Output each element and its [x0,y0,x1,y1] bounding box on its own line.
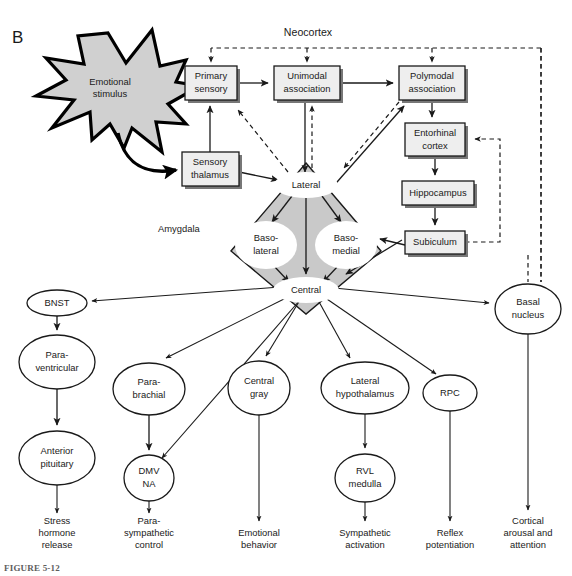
figure-root: Emotional stimulus [0,0,572,576]
unimodal-association-label-line1: Unimodal [287,70,327,81]
emotional-line1: Emotional [238,527,280,538]
polymodal-association-label-line1: Polymodal [410,70,454,81]
node-basal-nucleus[interactable]: Basal nucleus [495,284,561,334]
lateral-to-polymodal-arrow [330,106,404,190]
node-rpc[interactable]: RPC [423,375,477,411]
emotional-line2: behavior [241,539,277,550]
outcome-parasympathetic-control: Para- sympathetic control [124,515,174,550]
outcome-emotional-behavior: Emotional behavior [238,527,280,550]
unimodal-association-label-line2: association [284,83,331,94]
basolateral-nucleus-label-line2: lateral [253,245,279,256]
outcome-cortical-arousal-attention: Cortical arousal and attention [504,515,553,550]
box-subiculum[interactable]: Subiculum [405,231,468,257]
thalamus-to-lateral-arrow [239,172,278,180]
lateral-hypothalamus-label-line2: hypothalamus [336,388,395,399]
stimulus-label-line1: Emotional [89,76,131,87]
sensory-thalamus-label-line1: Sensory [193,156,228,167]
dmv-na-label-line1: DMV [139,465,161,476]
rvl-medulla-label-line1: RVL [356,465,374,476]
parasymp-line3: control [135,539,163,550]
stress-line2: hormone [38,527,75,538]
box-entorhinal-cortex[interactable]: Entorhinal cortex [405,123,468,159]
central-to-basal-nucleus-arrow [334,288,489,303]
box-polymodal-association[interactable]: Polymodal association [399,66,468,103]
node-paraventricular[interactable]: Para- ventricular [19,335,95,389]
box-unimodal-association[interactable]: Unimodal association [274,66,343,103]
rvl-medulla-label-line2: medulla [349,478,383,489]
stress-line1: Stress [44,515,71,526]
parasymp-line2: sympathetic [124,527,174,538]
parabrachial-label-line2: brachial [133,389,166,400]
outcome-reflex-potentiation: Reflex potentiation [426,527,474,550]
outcome-sympathetic-activation: Sympathetic activation [339,527,391,550]
rpc-label: RPC [440,387,460,398]
anterior-pituitary-label-line1: Anterior [41,445,74,456]
hippocampus-label: Hippocampus [409,187,467,198]
box-sensory-thalamus[interactable]: Sensory thalamus [182,152,242,189]
amygdala-region-label: Amygdala [158,223,200,234]
stress-line3: release [42,539,73,550]
outcome-labels-group: Stress hormone release Para- sympathetic… [38,515,552,550]
central-gray-label-line1: Central [244,375,274,386]
basal-nucleus-label-line2: nucleus [512,309,545,320]
dmv-na-label-line2: NA [142,478,156,489]
box-hippocampus[interactable]: Hippocampus [402,181,477,208]
parasymp-line1: Para- [138,515,161,526]
node-anterior-pituitary[interactable]: Anterior pituitary [19,431,95,485]
basomedial-nucleus-label-line2: medial [332,245,360,256]
primary-sensory-label-line1: Primary [195,70,228,81]
central-to-lateral-hypothalamus-arrow [318,300,350,358]
cortical-line1: Cortical [512,515,544,526]
central-to-rpc-arrow [324,297,436,374]
outcome-stress-hormone-release: Stress hormone release [38,515,75,550]
bnst-label: BNST [44,297,69,308]
cortical-line3: attention [510,539,546,550]
polymodal-to-amygdala-dashed [344,102,399,168]
panel-letter: B [12,28,23,47]
parabrachial-label-line1: Para- [138,376,161,387]
central-to-central-gray-arrow [266,300,300,356]
central-nucleus-label: Central [291,284,321,295]
central-to-bnst-arrow [92,287,280,301]
anterior-pituitary-label-line2: pituitary [41,458,74,469]
sympathetic-line2: activation [345,539,385,550]
entorhinal-cortex-label-line1: Entorhinal [414,127,456,138]
subiculum-label: Subiculum [413,236,457,247]
neocortex-region-label: Neocortex [284,26,333,38]
paraventricular-label-line1: Para- [46,349,69,360]
node-central-gray[interactable]: Central gray [228,361,290,415]
entorhinal-cortex-label-line2: cortex [422,140,448,151]
lateral-to-primary-sensory-dashed [238,110,288,172]
primary-sensory-label-line2: sensory [195,83,228,94]
node-parabrachial[interactable]: Para- brachial [113,363,185,415]
node-dmv-na[interactable]: DMV NA [124,455,174,501]
reflex-line2: potentiation [426,539,474,550]
node-lateral-hypothalamus[interactable]: Lateral hypothalamus [321,362,409,414]
basolateral-nucleus-label-line1: Baso- [254,232,279,243]
node-rvl-medulla[interactable]: RVL medulla [335,454,395,502]
sensory-thalamus-label-line2: thalamus [191,169,229,180]
polymodal-association-label-line2: association [409,83,456,94]
central-gray-label-line2: gray [250,388,269,399]
node-bnst[interactable]: BNST [27,290,87,316]
figure-caption: FIGURE 5-12 [4,563,264,576]
stimulus-label-line2: stimulus [93,88,128,99]
cortical-line2: arousal and [504,527,553,538]
box-primary-sensory[interactable]: Primary sensory [185,66,240,103]
lateral-nucleus-label: Lateral [292,179,321,190]
circuit-diagram: Emotional stimulus [0,0,572,576]
sympathetic-line1: Sympathetic [339,527,391,538]
lateral-hypothalamus-label-line1: Lateral [351,375,380,386]
basomedial-nucleus-label-line1: Baso- [334,232,359,243]
emotional-stimulus-burst: Emotional stimulus [36,30,200,171]
reflex-line1: Reflex [437,527,464,538]
paraventricular-label-line2: ventricular [35,362,78,373]
basal-nucleus-label-line1: Basal [516,296,539,307]
